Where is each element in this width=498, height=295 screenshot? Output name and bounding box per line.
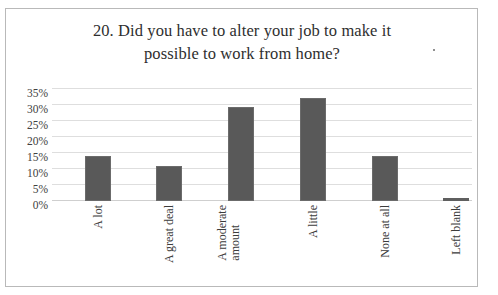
- x-label-left-blank: Left blank: [421, 205, 491, 285]
- y-tick-label-20: 20%: [10, 136, 48, 147]
- y-tick-label-15: 15%: [10, 152, 48, 163]
- y-tick-label-25: 25%: [10, 120, 48, 131]
- x-axis-category-labels: A lot A great deal A moderate amount A l…: [52, 205, 472, 287]
- gridline-35: [52, 88, 472, 89]
- gridline-5: [52, 184, 472, 185]
- x-label-a-moderate-amount: A moderate amount: [206, 205, 276, 285]
- y-tick-label-5: 5%: [10, 184, 48, 195]
- gridline-25: [52, 120, 472, 121]
- plot-wrapper: 35% 30% 25% 20% 15% 10% 5% 0%: [6, 9, 479, 288]
- bar-a-great-deal[interactable]: [156, 166, 182, 201]
- x-label-none-at-all: None at all: [350, 205, 420, 285]
- bar-a-moderate-amount[interactable]: [228, 107, 254, 201]
- x-label-a-lot: A lot: [63, 205, 133, 285]
- y-axis-tick-labels: 35% 30% 25% 20% 15% 10% 5% 0%: [10, 88, 48, 210]
- bar-a-lot[interactable]: [85, 156, 111, 201]
- x-label-a-great-deal: A great deal: [134, 205, 204, 285]
- bar-a-little[interactable]: [300, 98, 326, 201]
- y-tick-label-10: 10%: [10, 168, 48, 179]
- gridline-0-baseline: [52, 200, 472, 201]
- gridline-20: [52, 136, 472, 137]
- gridline-30: [52, 104, 472, 105]
- chart-frame: 20. Did you have to alter your job to ma…: [5, 8, 478, 287]
- gridline-10: [52, 168, 472, 169]
- gridline-15: [52, 152, 472, 153]
- bar-none-at-all[interactable]: [372, 156, 398, 201]
- y-tick-label-30: 30%: [10, 104, 48, 115]
- y-tick-label-0: 0%: [10, 200, 48, 211]
- x-label-a-little: A little: [278, 205, 348, 285]
- bar-left-blank[interactable]: [443, 198, 469, 201]
- plot-area: [52, 88, 472, 201]
- y-tick-label-35: 35%: [10, 88, 48, 99]
